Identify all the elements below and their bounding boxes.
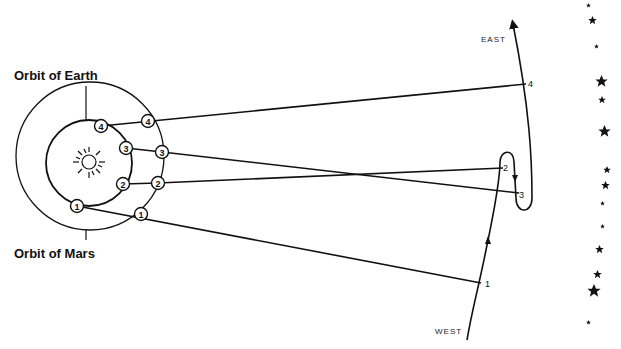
svg-text:4: 4 xyxy=(145,117,150,127)
star-icon xyxy=(594,44,599,49)
svg-text:1: 1 xyxy=(74,202,79,212)
sky-position-2: 2 xyxy=(503,163,508,173)
star-icon xyxy=(595,245,604,253)
star-icon xyxy=(603,166,611,173)
star-icon xyxy=(586,320,591,325)
svg-text:2: 2 xyxy=(120,180,125,190)
star-icon xyxy=(600,201,605,206)
star-icon xyxy=(588,16,597,24)
orbit-mars-label: Orbit of Mars xyxy=(14,246,95,261)
mars-position-1: 1 xyxy=(135,208,148,221)
orbit-earth-label: Orbit of Earth xyxy=(14,68,98,83)
sky-position-4: 4 xyxy=(528,79,533,89)
star-icon xyxy=(598,96,606,103)
star-field xyxy=(586,3,611,325)
west-label: WEST xyxy=(435,327,462,336)
star-icon xyxy=(595,75,607,87)
sky-position-3: 3 xyxy=(519,190,524,200)
sun-icon xyxy=(73,147,105,178)
mars-position-4: 4 xyxy=(142,115,155,128)
star-icon xyxy=(586,3,591,8)
mars-position-3: 3 xyxy=(156,146,169,159)
sky-position-1: 1 xyxy=(485,279,490,289)
svg-text:4: 4 xyxy=(98,122,103,132)
star-icon xyxy=(598,125,610,137)
retrograde-diagram: 1 2 3 4 1 2 3 4 1 2 3 4 Orbit of Earth O… xyxy=(0,0,621,349)
svg-text:3: 3 xyxy=(159,148,164,158)
mars-apparent-path xyxy=(467,24,532,340)
east-label: EAST xyxy=(481,35,506,44)
earth-position-3: 3 xyxy=(120,142,133,155)
svg-text:3: 3 xyxy=(123,144,128,154)
sight-lines xyxy=(77,84,526,283)
star-icon xyxy=(600,224,605,229)
star-icon xyxy=(587,284,600,297)
mars-position-2: 2 xyxy=(152,177,165,190)
svg-text:1: 1 xyxy=(138,210,143,220)
earth-position-4: 4 xyxy=(95,120,108,133)
earth-position-1: 1 xyxy=(71,200,84,213)
earth-position-2: 2 xyxy=(117,178,130,191)
star-icon xyxy=(593,270,602,278)
star-icon xyxy=(601,181,610,189)
svg-text:2: 2 xyxy=(155,179,160,189)
